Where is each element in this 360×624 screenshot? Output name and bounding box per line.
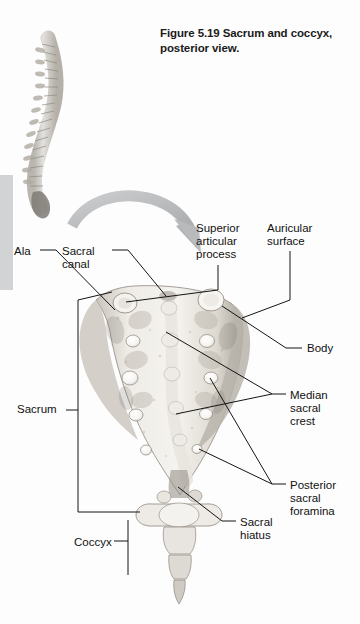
label-body: Body [307,342,333,355]
coccyx-bone [136,503,222,604]
label-sacral-canal: Sacral canal [62,245,95,271]
figure-artwork [0,0,360,624]
label-median-sacral-crest: Median sacral crest [290,389,328,427]
label-coccyx: Coccyx [74,536,112,549]
sacral-canal-opening [159,291,177,301]
label-superior-articular-process: Superior articular process [196,222,239,260]
label-sacrum: Sacrum [17,403,57,416]
label-posterior-sacral-foramina: Posterior sacral foramina [290,479,336,517]
label-sacral-hiatus: Sacral hiatus [240,516,273,542]
label-auricular-surface: Auricular surface [267,222,312,248]
figure-page: Figure 5.19 Sacrum and coccyx, posterior… [0,0,360,624]
vertebral-column-illustration [22,38,58,218]
label-ala: Ala [14,245,31,258]
sacrum-coccyx-bone [79,286,250,604]
sacral-hiatus-opening [169,470,190,498]
